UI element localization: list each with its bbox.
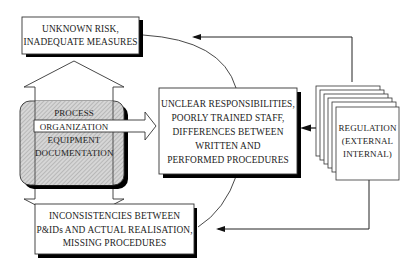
factors-label: PROCESS ORGANIZATION EQUIPMENT DOCUMENTA… <box>35 107 113 159</box>
arrow-regulation-to-inconsistencies <box>218 180 369 229</box>
curve-unknown-to-central <box>143 35 236 88</box>
unknown-risk-label: UNKNOWN RISK, INADEQUATE MEASURES <box>22 23 139 49</box>
inconsistencies-label: INCONSISTENCIES BETWEEN P&IDs AND ACTUAL… <box>35 210 194 251</box>
regulation-label: REGULATION (EXTERNAL INTERNAL) <box>336 122 399 161</box>
curve-central-to-inconsistencies <box>198 174 237 227</box>
central-label: UNCLEAR RESPONSIBILITIES, POORLY TRAINED… <box>159 97 297 167</box>
